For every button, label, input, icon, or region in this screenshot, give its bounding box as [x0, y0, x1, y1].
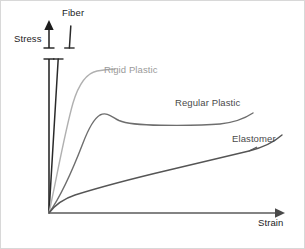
fiber-curve-group: [49, 26, 75, 213]
stress-strain-figure: Stress Fiber Rigid Plastic Regular Plast…: [0, 0, 305, 249]
elastomer-curve-label: Elastomer: [232, 133, 276, 144]
fiber-curve-upper-segment: [69, 26, 70, 48]
fiber-curve-label: Fiber: [62, 7, 84, 18]
y-axis-group: [44, 20, 55, 213]
x-axis-group: [49, 208, 285, 218]
rigid-plastic-curve: [49, 69, 115, 213]
elastomer-curve: [49, 135, 282, 213]
rigid-plastic-curve-label: Rigid Plastic: [104, 64, 158, 75]
y-axis-arrowhead: [44, 20, 53, 30]
plot-canvas: [1, 1, 305, 249]
regular-plastic-curve-label: Regular Plastic: [175, 97, 240, 108]
y-axis-label: Stress: [14, 33, 42, 44]
x-axis-label: Strain: [258, 217, 283, 228]
regular-plastic-curve: [49, 113, 253, 213]
